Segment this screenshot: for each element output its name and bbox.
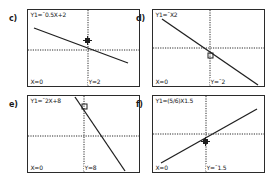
trace-x-label-e: X=0: [30, 164, 43, 171]
function-line-f: [161, 109, 257, 163]
trace-y-label-c: Y=2: [88, 78, 101, 85]
function-line-c: [34, 28, 128, 63]
trace-cursor-f: [201, 137, 210, 146]
calculator-screen-e[interactable]: Y1=¯2X+8 X=0 Y=8: [27, 95, 140, 173]
graph-e: [28, 96, 139, 172]
graph-d: [153, 10, 264, 86]
trace-y-label-d: Y=¯2: [210, 78, 226, 85]
panel-letter-e: e): [9, 101, 18, 109]
trace-x-label-c: X=0: [30, 78, 43, 85]
equation-label-c: Y1=¯0.5X+2: [30, 11, 67, 18]
trace-x-label-f: X=0: [155, 164, 168, 171]
equation-label-e: Y1=¯2X+8: [30, 97, 61, 104]
graph-c: [28, 10, 139, 86]
calculator-screen-f[interactable]: Y1=(5/6)X­1.5 X=0 Y=¯1.5: [152, 95, 265, 173]
trace-y-label-f: Y=¯1.5: [206, 164, 227, 171]
trace-cursor-c: [83, 36, 92, 45]
calculator-screen-c[interactable]: Y1=¯0.5X+2 X=0 Y=2: [27, 9, 140, 87]
panel-letter-f: f): [136, 101, 143, 109]
panel-letter-d: d): [136, 15, 145, 23]
graph-f: [153, 96, 264, 172]
trace-x-label-d: X=0: [155, 78, 168, 85]
equation-label-f: Y1=(5/6)X­1.5: [155, 97, 194, 104]
trace-y-label-e: Y=8: [84, 164, 97, 171]
figure-sheet: c) Y1=¯0.5X+2 X=0 Y=2 d): [0, 0, 279, 181]
equation-label-d: Y1=¯X­2: [155, 11, 178, 18]
calculator-screen-d[interactable]: Y1=¯X­2 X=0 Y=¯2: [152, 9, 265, 87]
panel-letter-c: c): [9, 15, 17, 23]
